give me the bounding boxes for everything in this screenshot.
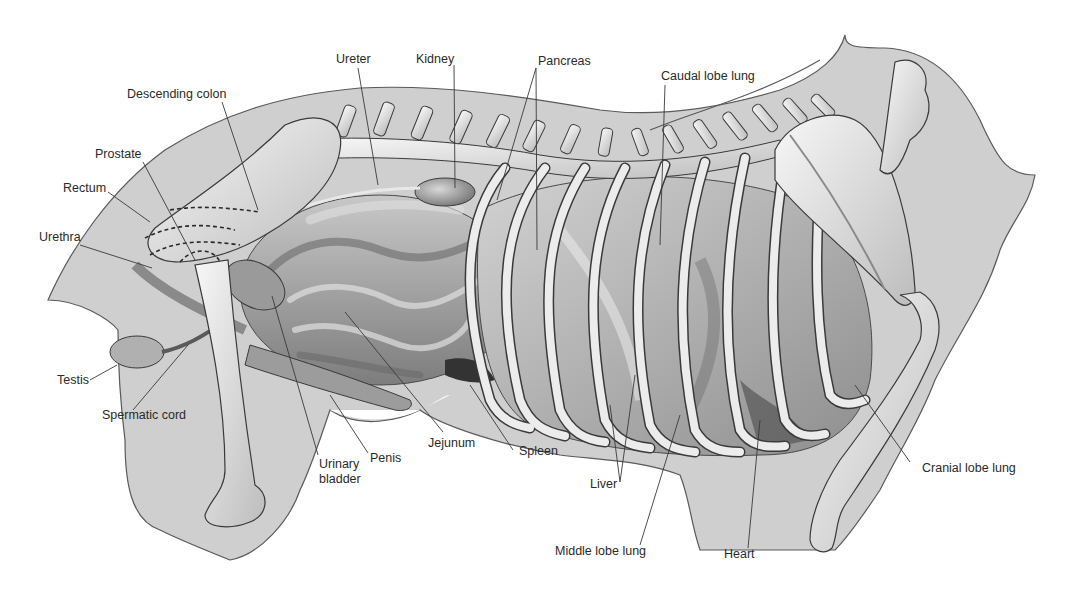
- label-rectum: Rectum: [63, 181, 106, 196]
- label-prostate: Prostate: [95, 147, 142, 162]
- label-urinary-bladder: Urinary bladder: [319, 457, 361, 487]
- label-liver: Liver: [590, 477, 617, 492]
- label-jejunum: Jejunum: [428, 436, 475, 451]
- label-middle-lobe-lung: Middle lobe lung: [555, 544, 646, 559]
- label-caudal-lobe-lung: Caudal lobe lung: [661, 69, 755, 84]
- label-spleen: Spleen: [519, 444, 558, 459]
- anatomy-diagram: Ureter Kidney Pancreas Caudal lobe lung …: [0, 0, 1073, 598]
- label-penis: Penis: [370, 451, 401, 466]
- label-testis: Testis: [57, 373, 89, 388]
- label-pancreas: Pancreas: [538, 54, 591, 69]
- label-descending-colon: Descending colon: [127, 87, 226, 102]
- label-ureter: Ureter: [336, 52, 371, 67]
- label-spermatic-cord: Spermatic cord: [102, 408, 186, 423]
- label-kidney: Kidney: [416, 52, 454, 67]
- label-heart: Heart: [724, 547, 755, 562]
- label-cranial-lobe-lung: Cranial lobe lung: [922, 461, 1016, 476]
- label-urethra: Urethra: [39, 230, 81, 245]
